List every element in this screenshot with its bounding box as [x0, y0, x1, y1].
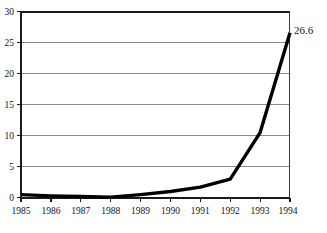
y-tick-label-25: 25	[5, 38, 15, 48]
x-tick-label-1991: 1991	[191, 206, 210, 216]
y-tick-label-10: 10	[5, 131, 15, 141]
x-tick-label-1990: 1990	[161, 206, 180, 216]
x-tick-label-1988: 1988	[101, 206, 120, 216]
x-tick-label-1993: 1993	[251, 206, 270, 216]
data-point-label-1994: 26.6	[294, 24, 314, 36]
x-tick-label-1986: 1986	[41, 206, 60, 216]
y-tick-label-0: 0	[9, 193, 14, 203]
y-tick-label-30: 30	[5, 7, 15, 17]
x-tick-label-1992: 1992	[221, 206, 240, 216]
chart-canvas: 0 5 10 15 20 25 30 1985 1986 1987 1988	[0, 0, 327, 233]
x-tick-label-1989: 1989	[131, 206, 150, 216]
line-chart: 0 5 10 15 20 25 30 1985 1986 1987 1988	[0, 0, 327, 233]
x-tick-label-1985: 1985	[12, 206, 31, 216]
y-tick-label-15: 15	[5, 100, 15, 110]
y-tick-label-20: 20	[5, 69, 15, 79]
x-tick-label-1987: 1987	[71, 206, 90, 216]
x-tick-label-1994: 1994	[279, 206, 298, 216]
y-tick-label-5: 5	[9, 162, 14, 172]
